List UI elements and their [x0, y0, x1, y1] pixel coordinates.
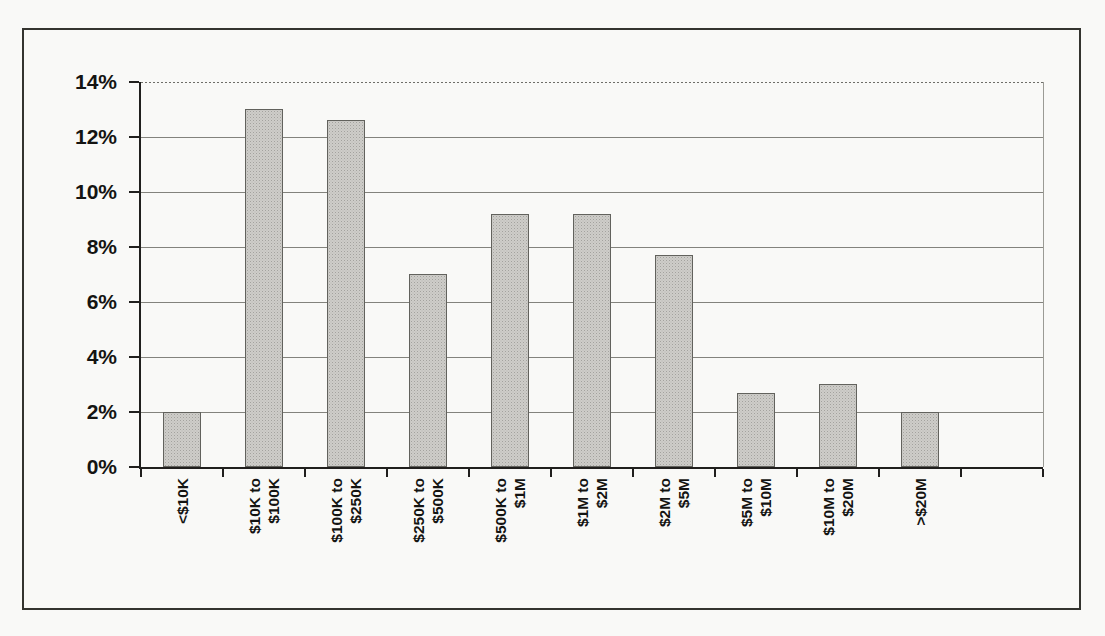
- x-category-label: $5M to$10M: [734, 478, 778, 590]
- y-tick: [129, 356, 139, 358]
- x-category-label-line: $250K: [346, 478, 365, 590]
- y-tick: [129, 81, 139, 83]
- x-tick: [468, 469, 470, 477]
- x-tick: [140, 469, 142, 477]
- x-tick: [550, 469, 552, 477]
- x-tick: [960, 469, 962, 477]
- y-tick-label: 2%: [45, 400, 117, 424]
- x-category-label: $10K to$100K: [242, 478, 286, 590]
- x-category-label: $500K to$1M: [488, 478, 532, 590]
- x-tick: [222, 469, 224, 477]
- x-tick: [714, 469, 716, 477]
- x-category-label-line: $500K: [428, 478, 447, 590]
- bar: [163, 412, 201, 467]
- x-category-label-line: $10K to: [245, 478, 264, 590]
- bar: [245, 109, 283, 467]
- y-tick-label: 10%: [45, 180, 117, 204]
- x-category-label-line: $100K: [264, 478, 283, 590]
- x-axis-line: [139, 467, 1043, 469]
- y-tick: [129, 191, 139, 193]
- x-category-label-line: $5M: [674, 478, 693, 590]
- x-category-label-line: $100K to: [327, 478, 346, 590]
- x-category-label-line: $10M to: [819, 478, 838, 590]
- y-tick-label: 14%: [45, 70, 117, 94]
- bar: [737, 393, 775, 467]
- x-category-label: >$20M: [898, 478, 942, 590]
- y-tick: [129, 246, 139, 248]
- y-tick: [129, 411, 139, 413]
- y-tick-label: 12%: [45, 125, 117, 149]
- bar: [819, 384, 857, 467]
- x-category-label-line: $1M: [510, 478, 529, 590]
- x-category-label: $10M to$20M: [816, 478, 860, 590]
- y-tick-label: 6%: [45, 290, 117, 314]
- x-tick: [386, 469, 388, 477]
- plot-right-border: [1043, 82, 1044, 467]
- scanned-figure-page: 0%2%4%6%8%10%12%14%<$10K$10K to$100K$100…: [0, 0, 1105, 636]
- x-category-label-line: $20M: [838, 478, 857, 590]
- y-tick: [129, 301, 139, 303]
- y-tick-label: 4%: [45, 345, 117, 369]
- x-category-label-line: $5M to: [737, 478, 756, 590]
- x-category-label: $2M to$5M: [652, 478, 696, 590]
- x-category-label: $250K to$500K: [406, 478, 450, 590]
- x-category-label: <$10K: [160, 478, 204, 590]
- x-category-label-line: $10M: [756, 478, 775, 590]
- bar: [573, 214, 611, 467]
- y-tick-label: 0%: [45, 455, 117, 479]
- y-axis-line: [139, 82, 141, 469]
- x-tick: [878, 469, 880, 477]
- x-category-label-line: $250K to: [409, 478, 428, 590]
- x-category-label-line: $2M: [592, 478, 611, 590]
- y-tick: [129, 136, 139, 138]
- x-category-label-line: <$10K: [173, 478, 192, 590]
- gridline: [141, 82, 1043, 83]
- x-tick: [632, 469, 634, 477]
- x-category-label-line: $2M to: [655, 478, 674, 590]
- bar: [655, 255, 693, 467]
- x-category-label-line: >$20M: [911, 478, 930, 590]
- x-tick: [796, 469, 798, 477]
- x-tick: [304, 469, 306, 477]
- x-tick: [1042, 469, 1044, 477]
- bar: [491, 214, 529, 467]
- bar: [327, 120, 365, 467]
- x-category-label: $100K to$250K: [324, 478, 368, 590]
- bar: [409, 274, 447, 467]
- y-tick: [129, 466, 139, 468]
- bar-chart: 0%2%4%6%8%10%12%14%<$10K$10K to$100K$100…: [0, 0, 1105, 636]
- y-tick-label: 8%: [45, 235, 117, 259]
- x-category-label-line: $1M to: [573, 478, 592, 590]
- x-category-label: $1M to$2M: [570, 478, 614, 590]
- x-category-label-line: $500K to: [491, 478, 510, 590]
- bar: [901, 412, 939, 467]
